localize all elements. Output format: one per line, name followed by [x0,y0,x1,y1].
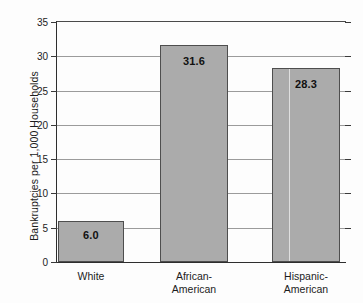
y-tick-0 [51,262,57,263]
bar-value-hispanic-american: 28.3 [273,78,339,90]
bar-hispanic-american[interactable]: 28.3 [272,68,340,262]
y-tick-right-35 [345,22,351,23]
bar-chart-figure: Bankruptcies per 1,000 Households 35 30 … [0,0,363,303]
y-tick-label-35: 35 [37,17,48,28]
y-tick-right-5 [345,228,351,229]
y-tick-label-5: 5 [42,222,48,233]
y-tick-right-10 [345,193,351,194]
y-tick-25 [51,91,57,92]
y-tick-right-15 [345,159,351,160]
plot-area: 35 30 25 20 15 10 5 0 6.0 [57,22,345,262]
y-tick-15 [51,159,57,160]
x-axis-label-hispanic-american-line1: Hispanic- [272,270,340,283]
y-tick-right-25 [345,91,351,92]
y-tick-label-0: 0 [42,257,48,268]
bar-value-white: 6.0 [59,229,123,241]
bar-value-african-american: 31.6 [161,55,227,67]
bar-african-american[interactable]: 31.6 [160,45,228,262]
x-axis-label-hispanic-american: Hispanic- American [272,270,340,296]
x-axis-label-white: White [58,270,124,283]
y-tick-label-25: 25 [37,85,48,96]
y-tick-label-30: 30 [37,51,48,62]
y-tick-right-20 [345,125,351,126]
y-tick-label-15: 15 [37,154,48,165]
x-axis-label-hispanic-american-line2: American [272,283,340,296]
y-tick-right-30 [345,56,351,57]
x-axis-label-african-american: African- American [160,270,228,296]
plot-top-border [56,21,346,22]
y-tick-30 [51,56,57,57]
x-axis-label-white-line1: White [58,270,124,283]
x-axis-label-african-american-line2: American [160,283,228,296]
bar-white[interactable]: 6.0 [58,221,124,262]
y-tick-label-20: 20 [37,119,48,130]
scan-artifact-line [289,69,290,261]
y-tick-5 [51,228,57,229]
y-tick-10 [51,193,57,194]
y-tick-label-10: 10 [37,188,48,199]
y-tick-20 [51,125,57,126]
y-tick-35 [51,22,57,23]
x-axis-label-african-american-line1: African- [160,270,228,283]
